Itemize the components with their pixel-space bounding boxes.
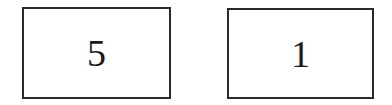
number-box-right: 1 [227, 8, 374, 99]
number-label-right: 1 [291, 35, 310, 73]
number-label-left: 5 [87, 34, 106, 72]
number-box-left: 5 [22, 7, 171, 99]
